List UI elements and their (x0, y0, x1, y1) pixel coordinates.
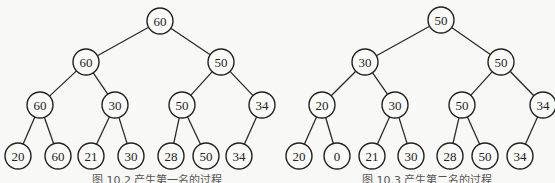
node-label: 60 (80, 55, 93, 70)
node-label: 34 (233, 149, 247, 164)
node-label: 20 (316, 98, 329, 113)
tree-node: 28 (158, 143, 184, 169)
node-label: 30 (125, 149, 138, 164)
tree-node: 50 (449, 92, 475, 118)
tree-edge (244, 117, 256, 144)
node-label: 50 (479, 149, 492, 164)
tree-edge (174, 118, 180, 144)
node-label: 28 (444, 149, 457, 164)
caption-left: 图 10.2 产生第一名的过程 (92, 171, 223, 183)
tree-edge (510, 71, 534, 95)
tree-edge (191, 72, 213, 96)
tournament-tree-figure: 6060506030503420602130285034503050203050… (0, 0, 555, 183)
tree-edge (525, 117, 537, 144)
tree-edge (304, 117, 316, 144)
tree-node: 50 (193, 143, 219, 169)
node-label: 30 (405, 149, 418, 164)
tree-node: 50 (472, 143, 498, 169)
node-label: 20 (293, 149, 306, 164)
node-label: 0 (334, 149, 341, 164)
tree-node: 60 (45, 143, 71, 169)
tree-edge (377, 117, 389, 144)
tree-edge (23, 117, 35, 144)
tree-edge (188, 117, 201, 144)
tree-edges (23, 26, 538, 144)
tree-edge (452, 27, 491, 54)
tree-node: 30 (102, 92, 128, 118)
node-label: 34 (514, 149, 528, 164)
node-label: 50 (215, 55, 228, 70)
tree-node: 30 (352, 49, 378, 75)
node-label: 30 (359, 55, 372, 70)
caption-right: 图 10.3 产生第二名的过程 (362, 171, 493, 183)
node-label: 21 (366, 149, 379, 164)
tree-node: 34 (507, 143, 533, 169)
tree-edge (119, 117, 127, 143)
tree-edge (376, 26, 429, 55)
tree-edge (93, 73, 107, 94)
tree-node: 20 (5, 143, 31, 169)
node-label: 50 (200, 149, 213, 164)
node-label: 50 (495, 55, 508, 70)
tree-node: 0 (324, 143, 350, 169)
tree-node: 50 (208, 49, 234, 75)
node-label: 28 (165, 149, 178, 164)
tree-node: 21 (78, 143, 104, 169)
node-label: 30 (109, 98, 122, 113)
node-label: 34 (537, 98, 551, 113)
tree-edge (453, 118, 459, 144)
tree-node: 60 (27, 92, 53, 118)
tree-edge (471, 72, 493, 96)
node-label: 50 (176, 98, 189, 113)
tree-node: 50 (488, 49, 514, 75)
tree-node: 34 (249, 92, 275, 118)
tree-node: 50 (428, 7, 454, 33)
tree-edge (97, 27, 148, 55)
node-label: 21 (85, 149, 98, 164)
tree-nodes: 6060506030503420602130285034503050203050… (5, 7, 555, 169)
tree-node: 30 (382, 92, 408, 118)
tree-node: 60 (147, 8, 173, 34)
node-label: 20 (12, 149, 25, 164)
tree-node: 50 (169, 92, 195, 118)
node-label: 50 (456, 98, 469, 113)
tree-edge (230, 71, 253, 95)
tree-edge (49, 71, 76, 96)
node-label: 30 (389, 98, 402, 113)
tree-canvas: 6060506030503420602130285034503050203050… (0, 0, 555, 183)
tree-node: 60 (73, 49, 99, 75)
node-label: 60 (52, 149, 65, 164)
node-label: 60 (154, 14, 167, 29)
tree-node: 21 (359, 143, 385, 169)
tree-node: 30 (118, 143, 144, 169)
tree-edge (97, 117, 110, 144)
tree-edge (44, 117, 53, 143)
node-label: 50 (435, 13, 448, 28)
tree-edge (171, 28, 210, 54)
tree-node: 28 (437, 143, 463, 169)
tree-node: 20 (286, 143, 312, 169)
tree-node: 20 (309, 92, 335, 118)
tree-edge (399, 117, 407, 143)
node-label: 60 (34, 98, 47, 113)
tree-node: 30 (398, 143, 424, 169)
tree-edge (467, 117, 479, 144)
tree-node: 34 (530, 92, 555, 118)
node-label: 34 (256, 98, 270, 113)
tree-node: 34 (226, 143, 252, 169)
tree-edge (331, 71, 356, 96)
tree-edge (326, 117, 334, 143)
tree-edge (372, 73, 387, 95)
